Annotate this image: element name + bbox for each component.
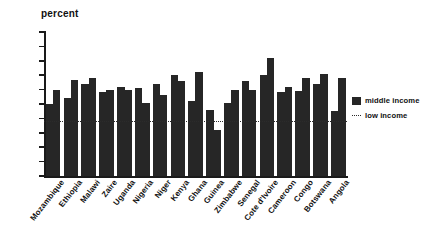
bar-chart: percent 00.511.522.533.544.55 Mozambique… bbox=[0, 0, 430, 233]
reference-line-low-income bbox=[44, 121, 347, 122]
bar bbox=[338, 78, 346, 176]
legend-swatch-solid-icon bbox=[352, 97, 361, 105]
bar-group bbox=[295, 32, 309, 176]
bar bbox=[213, 130, 221, 176]
bar-group bbox=[260, 32, 274, 176]
y-axis-tick-mark bbox=[39, 103, 44, 105]
bar-group bbox=[313, 32, 327, 176]
bar-group bbox=[135, 32, 149, 176]
bar-group bbox=[188, 32, 202, 176]
legend-item-middle-income: middle income bbox=[352, 96, 419, 105]
bar-group bbox=[153, 32, 167, 176]
legend-label-middle-income: middle income bbox=[365, 96, 419, 105]
y-axis-tick-mark bbox=[39, 161, 44, 163]
bar bbox=[106, 90, 114, 176]
bar bbox=[89, 78, 97, 176]
bar bbox=[249, 90, 257, 176]
bar-group bbox=[64, 32, 78, 176]
plot-area bbox=[44, 32, 347, 176]
y-axis-title: percent bbox=[41, 8, 79, 19]
y-axis-tick-mark bbox=[39, 118, 44, 120]
bar-group bbox=[331, 32, 345, 176]
bar bbox=[302, 78, 310, 176]
y-axis-tick-mark bbox=[39, 89, 44, 91]
y-axis-tick-mark bbox=[39, 74, 44, 76]
bar-group bbox=[99, 32, 113, 176]
y-axis-tick-mark bbox=[39, 46, 44, 48]
bar bbox=[267, 58, 275, 176]
legend-item-low-income: low income bbox=[352, 111, 407, 120]
bar-group bbox=[206, 32, 220, 176]
y-axis-tick-mark bbox=[39, 60, 44, 62]
bar bbox=[320, 74, 328, 176]
bar-group bbox=[81, 32, 95, 176]
bar bbox=[71, 80, 79, 176]
bars-layer bbox=[44, 32, 347, 176]
bar-group bbox=[224, 32, 238, 176]
bar-group bbox=[117, 32, 131, 176]
x-axis-labels: MozambiqueEthiopiaMalawiZaireUgandaNiger… bbox=[44, 176, 347, 233]
legend-label-low-income: low income bbox=[365, 111, 407, 120]
y-axis-tick-mark bbox=[39, 31, 44, 33]
bar-group bbox=[242, 32, 256, 176]
bar-group bbox=[46, 32, 60, 176]
bar bbox=[53, 90, 61, 176]
legend-swatch-dotted-icon bbox=[352, 115, 361, 116]
bar-group bbox=[277, 32, 291, 176]
bar bbox=[231, 90, 239, 176]
bar bbox=[178, 81, 186, 176]
bar bbox=[142, 103, 150, 176]
bar-group bbox=[171, 32, 185, 176]
bar bbox=[160, 95, 168, 176]
bar bbox=[124, 90, 132, 176]
y-axis-tick-mark bbox=[39, 132, 44, 134]
bar bbox=[285, 87, 293, 176]
bar bbox=[195, 72, 203, 176]
y-axis-tick-mark bbox=[39, 146, 44, 148]
